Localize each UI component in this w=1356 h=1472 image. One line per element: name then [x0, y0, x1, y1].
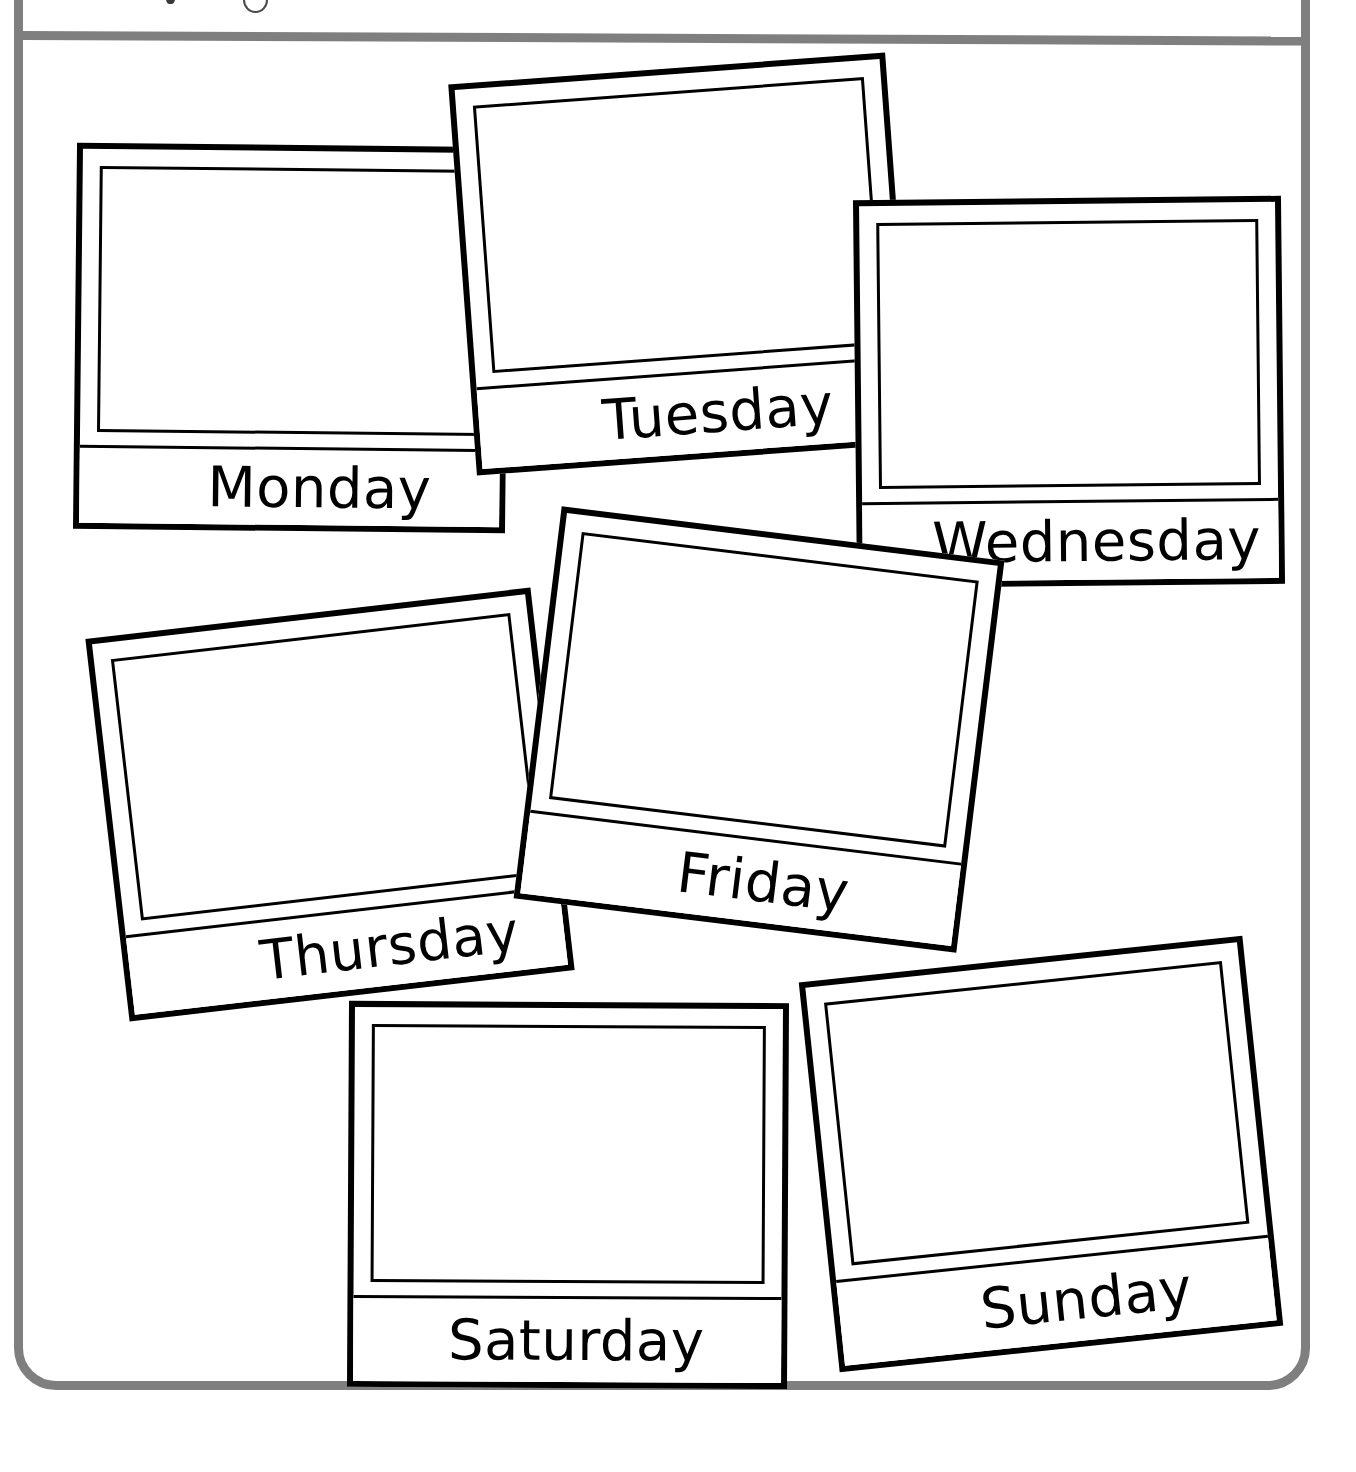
clipped-header-text	[0, 0, 1296, 26]
day-label-monday: Monday	[207, 459, 432, 517]
photo-area-friday[interactable]	[531, 513, 998, 863]
day-card-monday[interactable]: Monday	[73, 143, 509, 534]
worksheet-page: Monday Tuesday Wednesday Thursday	[0, 0, 1356, 1472]
worksheet-header-divider	[23, 31, 1310, 46]
photo-frame-thursday[interactable]	[111, 613, 541, 920]
photo-area-saturday[interactable]	[353, 1007, 783, 1297]
photo-frame-friday[interactable]	[549, 532, 979, 848]
clipped-glyph-circle	[243, 0, 268, 13]
photo-area-sunday[interactable]	[805, 942, 1267, 1280]
label-band-saturday: Saturday	[353, 1295, 781, 1383]
photo-frame-saturday[interactable]	[371, 1024, 766, 1284]
clipped-glyph-descender	[166, 0, 175, 4]
day-card-friday[interactable]: Friday	[514, 506, 1005, 952]
day-card-tuesday[interactable]: Tuesday	[448, 52, 914, 475]
day-card-saturday[interactable]: Saturday	[347, 1001, 789, 1389]
day-card-wednesday[interactable]: Wednesday	[853, 196, 1285, 588]
photo-area-monday[interactable]	[80, 149, 503, 449]
photo-area-thursday[interactable]	[92, 594, 559, 935]
photo-area-tuesday[interactable]	[455, 59, 902, 387]
photo-area-wednesday[interactable]	[859, 202, 1278, 502]
photo-frame-monday[interactable]	[97, 166, 486, 436]
photo-frame-wednesday[interactable]	[876, 219, 1261, 489]
photo-frame-tuesday[interactable]	[473, 77, 884, 373]
day-label-sunday: Sunday	[978, 1260, 1195, 1338]
photo-frame-sunday[interactable]	[824, 961, 1249, 1265]
label-band-monday: Monday	[79, 445, 500, 527]
day-label-thursday: Thursday	[258, 904, 522, 988]
day-label-friday: Friday	[674, 844, 852, 921]
day-card-thursday[interactable]: Thursday	[85, 588, 574, 1022]
day-card-sunday[interactable]: Sunday	[799, 936, 1284, 1372]
day-label-saturday: Saturday	[448, 1312, 705, 1369]
day-label-tuesday: Tuesday	[601, 376, 836, 449]
